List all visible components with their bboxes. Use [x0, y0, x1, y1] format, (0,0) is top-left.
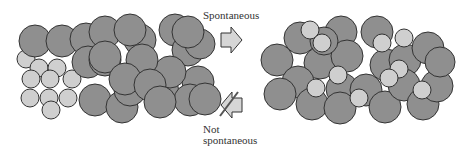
small-particles-cluster	[17, 50, 81, 119]
not-spontaneous-arrow-icon	[220, 92, 242, 118]
spontaneous-label: Spontaneous	[203, 9, 259, 21]
right-state-mixed	[261, 16, 455, 124]
spontaneous-arrow-icon	[221, 27, 242, 53]
left-state-separated	[17, 14, 221, 123]
diagram	[0, 0, 462, 148]
large-particles-mixed	[261, 16, 455, 124]
not-spontaneous-label-line2: spontaneous	[203, 134, 257, 146]
